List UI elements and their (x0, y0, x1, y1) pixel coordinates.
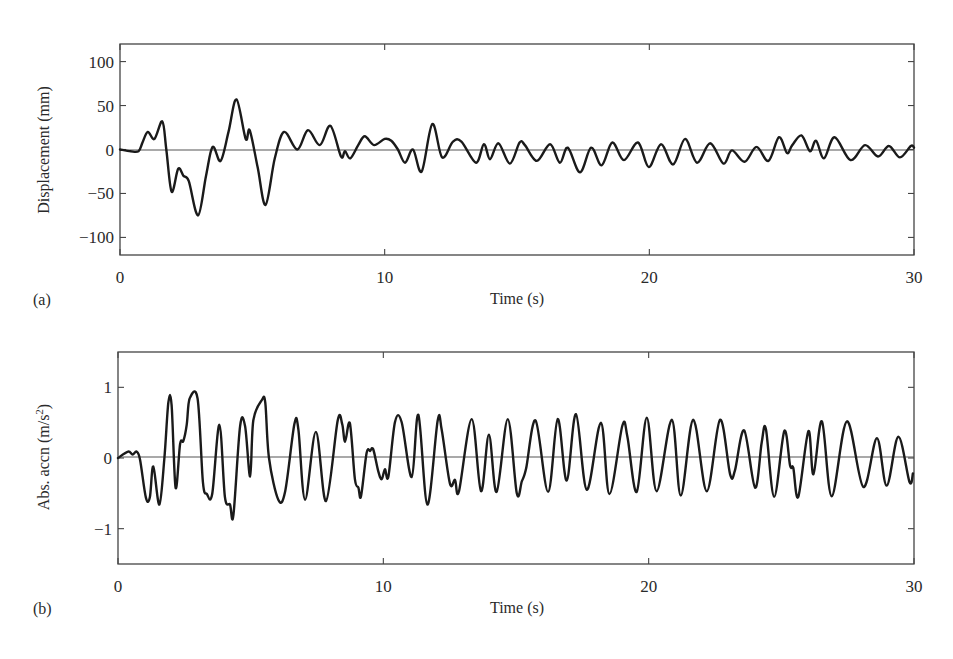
x-tick-label: 30 (906, 577, 923, 596)
panel-label-a: (a) (33, 291, 51, 309)
y-tick-label: 1 (104, 378, 113, 397)
y-tick-label: 0 (104, 449, 113, 468)
acceleration-trace (118, 391, 913, 519)
y-tick-label: 100 (89, 53, 115, 72)
panel-label-b: (b) (33, 600, 52, 618)
y-tick-label: −100 (79, 228, 114, 247)
x-tick-label: 0 (116, 268, 125, 287)
y-tick-label: −1 (94, 520, 112, 539)
displacement-trace (120, 99, 914, 215)
x-tick-label: 0 (114, 577, 123, 596)
panel-a-displacement-plot: 0102030100500−50−100 Time (s) Displaceme… (33, 44, 923, 309)
y-axis-label: Abs. accn (m/s2) (33, 404, 53, 510)
x-tick-label: 10 (376, 268, 393, 287)
x-tick-label: 20 (640, 577, 657, 596)
x-axis-label: Time (s) (490, 290, 544, 308)
figure: 0102030100500−50−100 Time (s) Displaceme… (0, 0, 953, 659)
y-axis-label-main: Abs. accn (m/s (35, 415, 53, 511)
x-tick-label: 10 (375, 577, 392, 596)
x-tick-label: 20 (641, 268, 658, 287)
y-axis-label: Displacement (mm) (35, 86, 53, 214)
x-tick-label: 30 (906, 268, 923, 287)
tick-labels: 010203010−1 (94, 378, 923, 596)
tick-labels: 0102030100500−50−100 (79, 53, 923, 287)
y-axis-label-end: ) (35, 404, 53, 409)
x-axis-label: Time (s) (490, 599, 544, 617)
panel-b-acceleration-plot: 010203010−1 Time (s) Abs. accn (m/s2) (b… (33, 352, 923, 618)
y-tick-label: 50 (97, 97, 114, 116)
y-tick-label: 0 (106, 141, 115, 160)
y-tick-label: −50 (87, 184, 114, 203)
